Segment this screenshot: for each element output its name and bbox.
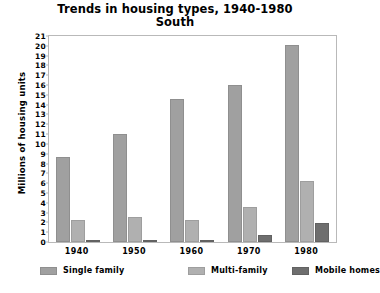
bar (228, 85, 242, 242)
plot-area: 0123456789101112131415161718192021 (48, 35, 337, 243)
y-axis-tick-label: 10 (35, 139, 46, 148)
chart-subtitle: South (0, 16, 350, 29)
bar (200, 240, 214, 242)
bar (243, 207, 257, 242)
bar (185, 220, 199, 242)
legend-label: Mobile homes (315, 266, 380, 275)
legend-item: Multi-family (188, 266, 268, 275)
x-axis-tick-label: 1940 (65, 247, 89, 256)
legend-label: Multi-family (211, 266, 268, 275)
bar-group-1940 (49, 36, 106, 242)
legend-swatch-icon (292, 267, 309, 275)
legend-item: Mobile homes (292, 266, 380, 275)
y-axis-tick-label: 21 (35, 32, 46, 41)
y-axis-tick-label: 13 (35, 110, 46, 119)
y-axis-tick-label: 20 (35, 41, 46, 50)
legend-item: Single family (40, 266, 124, 275)
bar (285, 45, 299, 242)
bar-group-1980 (279, 36, 336, 242)
y-axis-tick-label: 12 (35, 120, 46, 129)
bar (113, 134, 127, 242)
bar (56, 157, 70, 242)
bar-group-1960 (164, 36, 221, 242)
y-axis-tick-label: 14 (35, 100, 46, 109)
legend-swatch-icon (40, 267, 57, 275)
y-axis-tick-label: 19 (35, 51, 46, 60)
x-axis-tick-label: 1980 (294, 247, 318, 256)
bar (128, 217, 142, 242)
bar-group-1970 (221, 36, 278, 242)
legend-label: Single family (63, 266, 124, 275)
bar (86, 240, 100, 242)
bar (300, 181, 314, 242)
y-axis-tick-label: 11 (35, 130, 46, 139)
bar (170, 99, 184, 242)
x-axis-tick-label: 1960 (180, 247, 204, 256)
y-axis-tick-label: 17 (35, 71, 46, 80)
y-axis-tick-label: 18 (35, 61, 46, 70)
bar (315, 223, 329, 242)
legend-swatch-icon (188, 267, 205, 275)
y-axis-tick-label: 15 (35, 90, 46, 99)
y-axis-label: Millions of housing units (17, 63, 27, 203)
chart-title-block: Trends in housing types, 1940-1980 South (0, 3, 350, 29)
x-axis-tick-label: 1970 (237, 247, 261, 256)
bar-groups (49, 36, 336, 242)
chart-legend: Single familyMulti-familyMobile homes (40, 266, 345, 280)
y-axis-tick-label: 16 (35, 81, 46, 90)
bar (143, 240, 157, 242)
bar (258, 235, 272, 242)
x-axis-tick-label: 1950 (122, 247, 146, 256)
bar (71, 220, 85, 242)
bar-group-1950 (106, 36, 163, 242)
